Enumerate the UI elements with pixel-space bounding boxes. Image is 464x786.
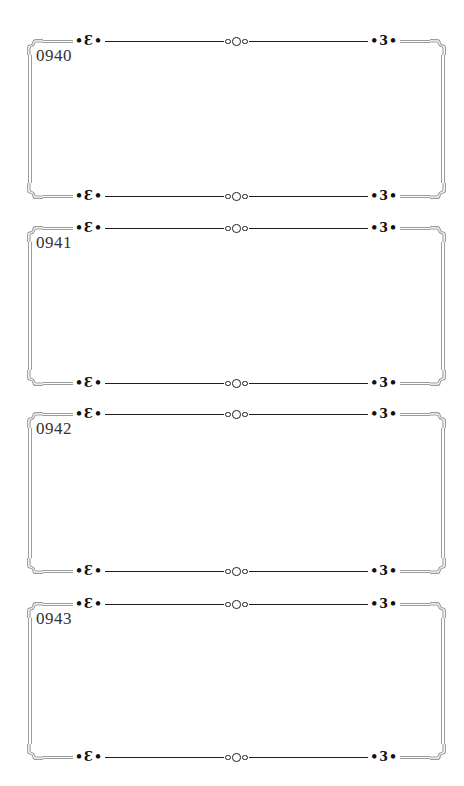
rule-line — [249, 383, 368, 384]
frame-number-label: 0942 — [36, 419, 72, 439]
frame-left-border — [28, 428, 32, 558]
frame-top-rule: •Ɛ• •3• — [28, 409, 445, 421]
left-scroll-ornament: •Ɛ• — [73, 377, 105, 390]
right-scroll-ornament: •3• — [368, 222, 400, 235]
frame-left-border — [28, 618, 32, 744]
circles-ornament — [225, 410, 248, 419]
frame-right-border — [441, 428, 445, 558]
frame-bottom-rule: •Ɛ• •3• — [28, 378, 445, 390]
frame-right-border — [441, 242, 445, 370]
numbered-frame: •Ɛ• •3• •Ɛ• •3• 0943 — [28, 603, 445, 759]
frame-top-rule: •Ɛ• •3• — [28, 599, 445, 611]
rule-line — [105, 196, 224, 197]
rule-line — [105, 604, 224, 605]
double-line-segment — [43, 756, 73, 760]
frame-left-border — [28, 242, 32, 370]
double-line-segment — [43, 227, 73, 231]
frame-bottom-rule: •Ɛ• •3• — [28, 566, 445, 578]
rule-line — [249, 228, 368, 229]
right-scroll-ornament: •3• — [368, 751, 400, 764]
double-line-segment — [43, 603, 73, 607]
frame-number-label: 0941 — [36, 233, 72, 253]
double-line-segment — [43, 195, 73, 199]
right-scroll-ornament: •3• — [368, 408, 400, 421]
double-line-segment — [43, 413, 73, 417]
left-scroll-ornament: •Ɛ• — [73, 190, 105, 203]
frame-top-rule: •Ɛ• •3• — [28, 223, 445, 235]
rule-line — [105, 414, 224, 415]
rule-line — [105, 228, 224, 229]
rule-line — [249, 604, 368, 605]
left-scroll-ornament: •Ɛ• — [73, 408, 105, 421]
frame-left-border — [28, 55, 32, 183]
rule-line — [249, 196, 368, 197]
circles-ornament — [225, 37, 248, 46]
right-scroll-ornament: •3• — [368, 565, 400, 578]
rule-line — [105, 41, 224, 42]
double-line-segment — [43, 382, 73, 386]
circles-ornament — [225, 753, 248, 762]
rule-line — [105, 383, 224, 384]
right-scroll-ornament: •3• — [368, 377, 400, 390]
double-line-segment — [400, 570, 430, 574]
double-line-segment — [400, 413, 430, 417]
double-line-segment — [400, 40, 430, 44]
left-scroll-ornament: •Ɛ• — [73, 222, 105, 235]
rule-line — [249, 757, 368, 758]
frame-right-border — [441, 55, 445, 183]
left-scroll-ornament: •Ɛ• — [73, 598, 105, 611]
left-scroll-ornament: •Ɛ• — [73, 35, 105, 48]
double-line-segment — [400, 195, 430, 199]
frame-top-rule: •Ɛ• •3• — [28, 36, 445, 48]
left-scroll-ornament: •Ɛ• — [73, 565, 105, 578]
frame-bottom-rule: •Ɛ• •3• — [28, 191, 445, 203]
right-scroll-ornament: •3• — [368, 598, 400, 611]
frame-right-border — [441, 618, 445, 744]
frame-number-label: 0943 — [36, 609, 72, 629]
right-scroll-ornament: •3• — [368, 35, 400, 48]
rule-line — [249, 571, 368, 572]
double-line-segment — [43, 40, 73, 44]
numbered-frame: •Ɛ• •3• •Ɛ• •3• 0940 — [28, 40, 445, 198]
double-line-segment — [400, 382, 430, 386]
numbered-frame: •Ɛ• •3• •Ɛ• •3• 0942 — [28, 413, 445, 573]
rule-line — [105, 571, 224, 572]
rule-line — [249, 41, 368, 42]
double-line-segment — [400, 756, 430, 760]
right-scroll-ornament: •3• — [368, 190, 400, 203]
rule-line — [249, 414, 368, 415]
circles-ornament — [225, 567, 248, 576]
numbered-frame: •Ɛ• •3• •Ɛ• •3• 0941 — [28, 227, 445, 385]
frame-bottom-rule: •Ɛ• •3• — [28, 752, 445, 764]
double-line-segment — [400, 603, 430, 607]
circles-ornament — [225, 224, 248, 233]
double-line-segment — [400, 227, 430, 231]
circles-ornament — [225, 192, 248, 201]
rule-line — [105, 757, 224, 758]
circles-ornament — [225, 379, 248, 388]
frame-number-label: 0940 — [36, 46, 72, 66]
circles-ornament — [225, 600, 248, 609]
double-line-segment — [43, 570, 73, 574]
left-scroll-ornament: •Ɛ• — [73, 751, 105, 764]
frames-column: •Ɛ• •3• •Ɛ• •3• 0940 — [28, 40, 445, 759]
document-page: •Ɛ• •3• •Ɛ• •3• 0940 — [0, 0, 464, 786]
